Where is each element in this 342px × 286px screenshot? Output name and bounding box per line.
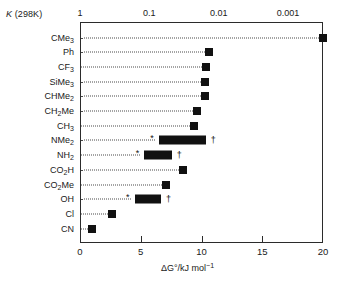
leader-line (81, 66, 202, 67)
annotation-asterisk: * (126, 193, 130, 202)
range-bar-nh2 (144, 151, 172, 160)
category-label-cme3: CMe3 (51, 32, 74, 43)
annotation-asterisk: * (136, 149, 140, 158)
category-label-nme2: NMe2 (51, 135, 74, 146)
k-tick-label: 0.001 (277, 8, 300, 18)
data-point-ph (205, 48, 213, 56)
x-tick-mark (202, 236, 203, 243)
data-point-sime3 (201, 78, 209, 86)
leader-line (81, 37, 319, 38)
leader-line (81, 155, 140, 156)
annotation-dagger: † (211, 136, 216, 145)
leader-line (81, 52, 205, 53)
plot-frame (80, 22, 323, 243)
leader-line (81, 213, 108, 214)
x-tick-label: 5 (138, 246, 143, 257)
x-axis-title: ΔG°/kJ mol−1 (0, 262, 342, 273)
x-tick-label: 10 (196, 246, 207, 257)
category-label-ch2me: CH2Me (45, 106, 74, 117)
chart-canvas: K (298K) 10.10.010.001 CMe3PhCF3SiMe3CHM… (0, 0, 342, 286)
k-tick-label: 0.01 (210, 8, 228, 18)
data-point-chme2 (201, 92, 209, 100)
x-tick-label: 0 (77, 246, 82, 257)
category-label-sime3: SiMe3 (50, 76, 74, 87)
leader-line (81, 81, 201, 82)
annotation-asterisk: * (150, 134, 154, 143)
category-label-cl: Cl (66, 209, 75, 219)
range-bar-oh (135, 195, 162, 204)
category-label-co2h: CO2H (50, 164, 74, 175)
x-axis-title-text: ΔG°/kJ mol (161, 263, 206, 273)
category-label-chme2: CHMe2 (45, 91, 74, 102)
category-label-nh2: NH2 (57, 150, 74, 161)
category-label-cn: CN (61, 224, 74, 234)
annotation-dagger: † (166, 195, 171, 204)
leader-line (81, 184, 162, 185)
range-bar-nme2 (159, 136, 206, 145)
x-tick-label: 20 (318, 246, 329, 257)
leader-line (81, 228, 88, 229)
data-point-cn (88, 225, 96, 233)
leader-line (81, 169, 179, 170)
category-label-cf3: CF3 (58, 61, 74, 72)
leader-line (81, 125, 190, 126)
category-label-co2me: CO2Me (44, 179, 74, 190)
data-point-co2me (162, 181, 170, 189)
leader-line (81, 96, 201, 97)
data-point-ch3 (190, 122, 198, 130)
leader-line (81, 140, 155, 141)
x-tick-mark (262, 236, 263, 243)
leader-line (81, 111, 193, 112)
data-point-co2h (179, 166, 187, 174)
x-tick-label: 15 (257, 246, 268, 257)
secondary-axis-title: K (298K) (6, 9, 42, 19)
x-tick-mark (141, 236, 142, 243)
data-point-cl (108, 210, 116, 218)
k-tick-label: 1 (77, 8, 82, 18)
category-label-ch3: CH3 (57, 120, 74, 131)
k-conditions: (298K) (12, 9, 42, 19)
x-axis-title-exponent: −1 (206, 262, 214, 269)
data-point-ch2me (193, 107, 201, 115)
annotation-dagger: † (177, 151, 182, 160)
k-tick-label: 0.1 (143, 8, 156, 18)
category-label-oh: OH (61, 194, 75, 204)
category-label-ph: Ph (63, 47, 74, 57)
data-point-cme3 (319, 34, 327, 42)
leader-line (81, 199, 131, 200)
data-point-cf3 (202, 63, 210, 71)
